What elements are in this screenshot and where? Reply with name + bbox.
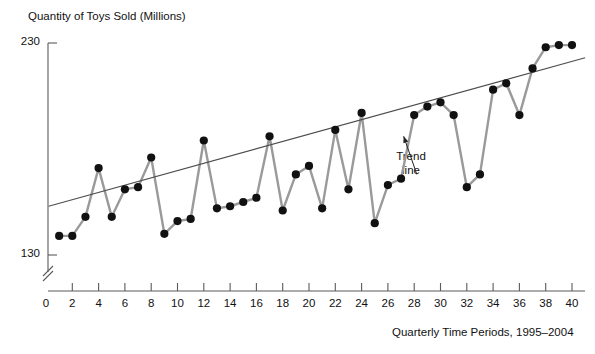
data-point-marker [108,213,116,221]
data-point-marker [344,185,352,193]
data-point-marker [292,170,300,178]
x-tick-label: 36 [509,297,529,309]
y-tick-label: 230 [6,35,40,47]
data-point-marker [568,41,576,49]
x-tick-label: 30 [431,297,451,309]
data-point-marker [515,111,523,119]
data-point-marker [147,153,155,161]
data-point-marker [279,206,287,214]
x-tick-label: 2 [62,297,82,309]
data-point-marker [463,183,471,191]
data-point-marker [68,232,76,240]
data-point-marker [542,43,550,51]
data-point-marker [95,164,103,172]
data-point-marker [384,181,392,189]
x-tick-label: 6 [115,297,135,309]
x-tick-label: 0 [36,297,56,309]
y-axis-ticks [48,43,57,255]
data-series-markers [55,41,576,240]
data-point-marker [436,98,444,106]
x-tick-label: 18 [273,297,293,309]
data-point-marker [160,230,168,238]
data-point-marker [358,109,366,117]
data-point-marker [528,64,536,72]
data-point-marker [476,170,484,178]
x-tick-label: 22 [325,297,345,309]
data-point-marker [187,215,195,223]
data-point-marker [305,162,313,170]
data-point-marker [318,204,326,212]
x-tick-label: 12 [194,297,214,309]
x-tick-label: 20 [299,297,319,309]
data-point-marker [397,175,405,183]
x-tick-label: 38 [536,297,556,309]
data-series-line [59,45,572,236]
data-point-marker [331,126,339,134]
data-point-marker [252,194,260,202]
x-tick-label: 14 [220,297,240,309]
data-point-marker [371,219,379,227]
data-point-marker [134,183,142,191]
data-point-marker [555,41,563,49]
data-point-marker [173,217,181,225]
data-point-marker [200,136,208,144]
x-tick-label: 26 [378,297,398,309]
x-tick-label: 24 [352,297,372,309]
x-tick-label: 40 [562,297,582,309]
data-point-marker [265,132,273,140]
data-point-marker [239,198,247,206]
x-tick-label: 8 [141,297,161,309]
data-point-marker [81,213,89,221]
data-point-marker [121,185,129,193]
x-axis-ticks [72,283,572,291]
data-point-marker [423,103,431,111]
x-tick-label: 28 [404,297,424,309]
chart-container: Quantity of Toys Sold (Millions) Quarter… [0,0,595,354]
data-point-marker [226,202,234,210]
x-tick-label: 10 [168,297,188,309]
data-point-marker [450,111,458,119]
data-point-marker [410,111,418,119]
x-tick-label: 34 [483,297,503,309]
x-tick-label: 16 [246,297,266,309]
x-tick-label: 32 [457,297,477,309]
x-tick-label: 4 [89,297,109,309]
y-tick-label: 130 [6,247,40,259]
data-point-marker [55,232,63,240]
data-point-marker [213,204,221,212]
data-point-marker [502,79,510,87]
data-point-marker [489,86,497,94]
